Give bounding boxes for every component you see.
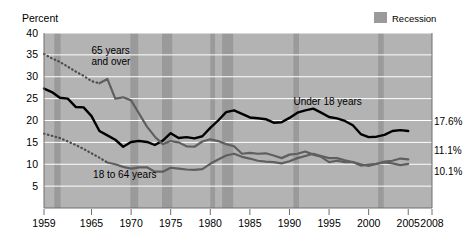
x-tick-label-1959: 1959	[32, 217, 56, 229]
chart-svg: 403530252015105 195919651970197519801985…	[0, 0, 465, 248]
y-axis-title: Percent	[22, 12, 58, 24]
x-tick-label-1985: 1985	[238, 217, 262, 229]
x-tick-label-1995: 1995	[317, 217, 341, 229]
y-tick-label-15: 15	[26, 136, 38, 148]
y-tick-label-20: 20	[26, 114, 38, 126]
y-tick-label-40: 40	[26, 27, 38, 39]
label-65-and-over-line1: 65 years	[92, 45, 130, 56]
poverty-rate-chart: 403530252015105 195919651970197519801985…	[0, 0, 465, 248]
y-tick-label-35: 35	[26, 48, 38, 60]
y-tick-label-10: 10	[26, 158, 38, 170]
recession-swatch	[374, 12, 387, 23]
legend-recession-label: Recession	[392, 13, 436, 24]
label-18-to-64: 18 to 64 years	[93, 169, 156, 180]
y-tick-label-30: 30	[26, 70, 38, 82]
label-65-and-over-line2: and over	[92, 56, 132, 67]
x-tick-label-1975: 1975	[159, 217, 183, 229]
x-tick-label-1980: 1980	[199, 217, 223, 229]
x-tick-label-2000: 2000	[357, 217, 381, 229]
x-tick-label-1965: 1965	[80, 217, 104, 229]
end-value-101: 10.1%	[434, 166, 462, 177]
label-under-18: Under 18 years	[293, 96, 361, 107]
end-value-111: 11.1%	[434, 145, 462, 156]
y-tick-label-5: 5	[32, 180, 38, 192]
end-value-labels: 17.6%11.1%10.1%	[434, 116, 462, 177]
y-tick-label-25: 25	[26, 92, 38, 104]
end-value-176: 17.6%	[434, 116, 462, 127]
x-tick-label-2008: 2008	[420, 217, 444, 229]
x-tick-label-1990: 1990	[278, 217, 302, 229]
legend: Recession	[374, 12, 436, 24]
x-tick-label-2005: 2005	[397, 217, 421, 229]
x-tick-label-1970: 1970	[119, 217, 143, 229]
